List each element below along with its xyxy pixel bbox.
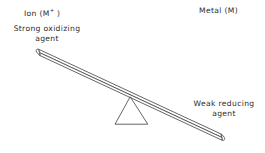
- caption-left-line-1: Strong oxidizing: [6, 24, 88, 34]
- caption-left-line-2: agent: [6, 34, 88, 44]
- seesaw-diagram-svg: [0, 0, 265, 153]
- beam-front-face: [40, 53, 223, 141]
- caption-strong-oxidizing-agent: Strong oxidizing agent: [6, 24, 88, 44]
- caption-weak-reducing-agent: Weak reducing agent: [185, 99, 263, 119]
- balance-beam: [36, 49, 225, 140]
- label-ion: Ion (M+ ): [24, 6, 60, 18]
- label-ion-closer: ): [54, 9, 60, 18]
- caption-right-line-2: agent: [185, 109, 263, 119]
- caption-right-line-1: Weak reducing: [185, 99, 263, 109]
- label-ion-text: Ion (M: [24, 9, 50, 18]
- diagram-canvas: Ion (M+ ) Metal (M) Strong oxidizing age…: [0, 0, 265, 153]
- label-metal: Metal (M): [199, 6, 238, 16]
